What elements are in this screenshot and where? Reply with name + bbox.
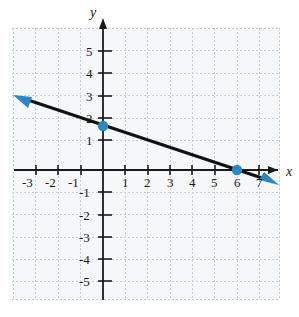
ytick-label-5: 5 (86, 45, 93, 58)
xtick-label-2: 2 (144, 176, 151, 189)
xtick-label-3: 3 (167, 176, 174, 189)
xtick-label--2: -2 (45, 176, 56, 189)
ytick-label--5: -5 (79, 275, 90, 288)
point-x-intercept (232, 165, 242, 175)
xtick-label--3: -3 (22, 176, 33, 189)
xtick-label-6: 6 (234, 176, 241, 189)
ytick-label--2: -2 (79, 209, 90, 222)
ytick-label-1: 1 (86, 134, 93, 147)
point-y-intercept (98, 121, 108, 131)
ytick-label--1: -1 (79, 186, 90, 199)
ytick-label-3: 3 (86, 90, 93, 103)
graph-figure: -3 -2 -1 1 2 3 4 5 6 7 5 4 3 2 1 -1 -2 -… (0, 0, 299, 317)
x-axis-label: x (286, 165, 292, 179)
y-axis-label: y (90, 6, 96, 20)
ytick-label-2: 2 (86, 112, 93, 125)
xtick-label--1: -1 (68, 176, 79, 189)
xtick-label-7: 7 (256, 176, 263, 189)
xtick-label-4: 4 (189, 176, 196, 189)
ytick-label--4: -4 (79, 253, 90, 266)
ytick-label-4: 4 (86, 67, 93, 80)
coordinate-plane (0, 0, 299, 317)
ytick-label--3: -3 (79, 231, 90, 244)
xtick-label-5: 5 (211, 176, 218, 189)
xtick-label-1: 1 (122, 176, 129, 189)
